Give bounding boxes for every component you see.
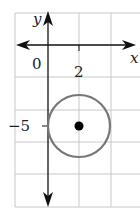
coordinate-plane: y x 0 2 −5	[0, 0, 140, 217]
y-axis-label: y	[32, 10, 42, 28]
center-point	[75, 122, 84, 131]
x-tick-label: 2	[74, 63, 84, 81]
x-axis	[16, 40, 136, 50]
y-axis	[43, 11, 53, 207]
x-axis-label: x	[130, 49, 139, 67]
origin-label: 0	[32, 55, 42, 73]
grid	[15, 13, 140, 207]
y-tick-label: −5	[8, 117, 30, 135]
